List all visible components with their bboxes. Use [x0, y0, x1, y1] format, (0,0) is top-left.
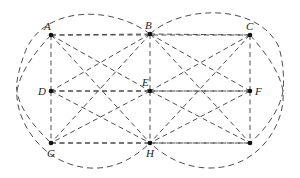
point-label-a: A	[43, 20, 51, 32]
point-label-g: G	[47, 147, 55, 159]
point-i	[248, 141, 253, 146]
point-f	[248, 89, 253, 94]
point-label-d: D	[37, 85, 46, 97]
point-h	[148, 141, 153, 146]
point-label-c: C	[246, 20, 254, 32]
point-label-e: E	[141, 76, 149, 88]
curve-2	[17, 35, 150, 168]
point-g	[49, 141, 54, 146]
point-b	[148, 32, 153, 37]
curve-3	[150, 13, 283, 143]
dashed-grid-lines	[51, 34, 250, 143]
segment-a-h	[51, 35, 150, 143]
geometry-diagram: ABCDEFGH	[0, 0, 300, 178]
point-label-h: H	[145, 147, 155, 159]
point-c	[248, 33, 253, 38]
point-label-f: F	[254, 85, 262, 97]
point-d	[49, 89, 54, 94]
point-e	[148, 89, 153, 94]
point-a	[49, 33, 54, 38]
segment-c-h	[150, 35, 250, 143]
labeled-points: ABCDEFGH	[37, 19, 262, 159]
curve-1	[17, 14, 150, 143]
segment-b-i	[150, 34, 250, 143]
point-label-b: B	[145, 19, 152, 31]
curve-4	[150, 35, 283, 168]
segment-a-b	[51, 34, 150, 35]
